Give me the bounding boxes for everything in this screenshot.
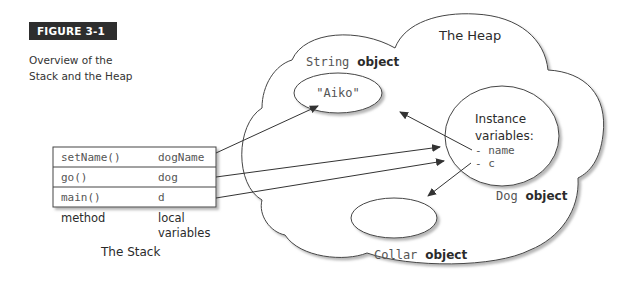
dog-type-name: Dog [496, 189, 518, 203]
stack-heap-diagram: The Heap String object "Aiko" Instance v… [0, 0, 632, 283]
dog-object-suffix: object [526, 189, 568, 203]
dog-field-name: - name [475, 144, 515, 157]
stack-local: d [158, 191, 165, 204]
stack-column-label-local-2: variables [158, 226, 210, 240]
heap-title: The Heap [438, 28, 501, 43]
stack-column-label-method: method [61, 211, 105, 225]
dog-field-c: - c [475, 157, 495, 170]
collar-type-name: Collar [374, 248, 417, 262]
string-object-label: String object [306, 55, 399, 69]
string-type-name: String [306, 55, 349, 69]
stack-local: dogName [158, 151, 204, 164]
dog-heading-1: Instance [475, 112, 526, 126]
dog-heading-2: variables: [475, 129, 534, 143]
dog-object-label: Dog object [496, 189, 568, 203]
stack-method: setName() [61, 151, 121, 164]
stack-local: dog [158, 171, 178, 184]
stack-column-label-local-1: local [158, 211, 185, 225]
stack-method: go() [61, 171, 88, 184]
string-value: "Aiko" [316, 86, 359, 100]
stack-method: main() [61, 191, 101, 204]
collar-object-label: Collar object [374, 248, 467, 262]
stack-title: The Stack [100, 245, 160, 259]
collar-object-ellipse [351, 198, 437, 238]
string-object-suffix: object [357, 55, 399, 69]
collar-object-suffix: object [425, 248, 467, 262]
